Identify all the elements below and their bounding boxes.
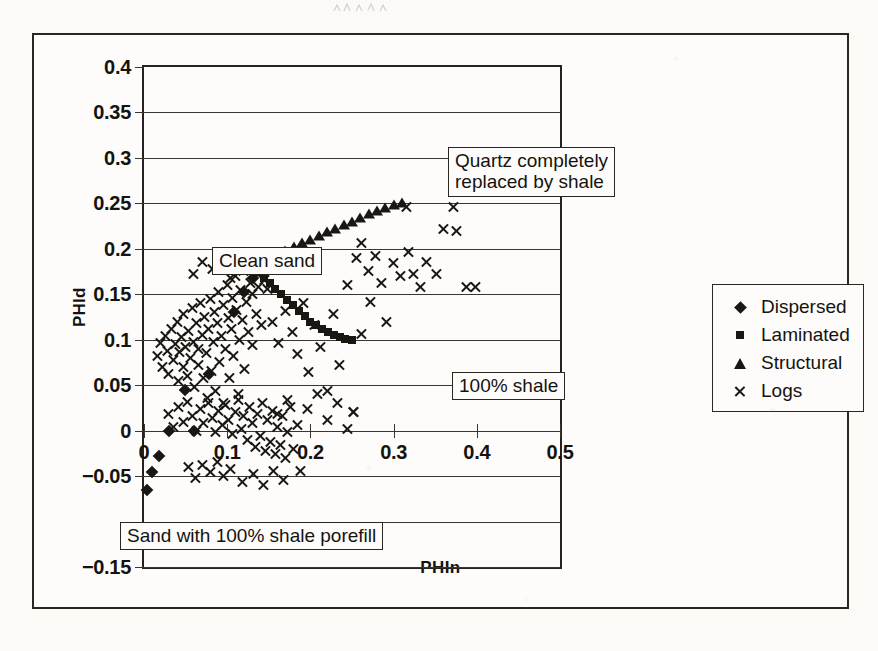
x-tick-label: 0.5 [547,441,574,464]
y-axis-title: PHId [70,287,90,327]
data-point-logs [387,257,400,270]
square-icon [727,331,753,339]
data-point-logs [200,347,213,360]
data-point-logs [347,406,360,419]
y-tick-mark [135,431,144,432]
data-point-logs [287,442,300,455]
y-tick-label: −0.05 [82,465,131,488]
data-point-logs [192,359,205,372]
data-point-logs [327,308,340,321]
data-point-logs [321,413,334,426]
data-point-logs [341,279,354,292]
data-point-logs [402,246,415,259]
data-point-logs [469,281,482,294]
y-tick-mark [135,476,144,477]
y-tick-mark [135,249,144,250]
data-point-dispersed [141,483,154,496]
annotation-sand-shale-porefill: Sand with 100% shale porefill [120,522,383,550]
x-tick-mark [394,424,395,438]
data-point-logs [414,281,427,294]
data-point-logs [297,297,310,310]
data-point-logs [266,315,279,328]
data-point-logs [291,419,304,432]
chart-legend: DispersedLaminatedStructuralLogs [712,284,864,412]
triangle-icon [727,358,753,369]
data-point-logs [447,201,460,214]
data-point-logs [271,408,284,421]
y-tick-mark [135,158,144,159]
x-tick-mark [477,424,478,438]
y-tick-mark [135,294,144,295]
data-point-logs [331,397,344,410]
data-point-logs [281,393,294,406]
x-tick-label: 0 [139,441,150,464]
data-point-logs [350,251,363,264]
data-point-logs [407,268,420,281]
diamond-icon [727,303,753,312]
cross-icon [727,385,753,398]
legend-item-dispersed[interactable]: Dispersed [713,293,863,321]
y-tick-label: 0.1 [104,328,131,351]
data-point-logs [213,355,226,368]
data-point-logs [211,455,224,468]
x-tick-label: 0.2 [297,441,324,464]
y-tick-label: 0.2 [104,237,131,260]
data-point-logs [291,348,304,361]
data-point-logs [236,313,249,326]
data-point-logs [286,326,299,339]
legend-item-label: Laminated [761,324,850,346]
y-tick-label: 0.25 [93,192,131,215]
data-point-logs [308,319,321,332]
data-point-logs [364,295,377,308]
plot-area: −0.15−0.0500.050.10.150.20.250.30.350.4 … [142,65,562,569]
x-tick-label: 0.4 [463,441,490,464]
data-point-logs [375,277,388,290]
y-tick-label: 0.05 [93,374,131,397]
x-tick-label: 0.3 [380,441,407,464]
legend-item-label: Dispersed [761,296,847,318]
scan-header-smudge [330,2,450,14]
y-tick-label: 0.15 [93,283,131,306]
data-point-logs [223,371,236,384]
gridline [144,249,560,250]
data-point-logs [430,268,443,281]
y-tick-label: 0.4 [104,56,131,79]
legend-item-laminated[interactable]: Laminated [713,321,863,349]
data-point-logs [277,473,290,486]
data-point-logs [238,362,251,375]
y-tick-label: −0.15 [82,556,131,579]
data-point-logs [242,326,255,339]
data-point-logs [437,222,450,235]
legend-item-structural[interactable]: Structural [713,349,863,377]
data-point-logs [394,270,407,283]
data-point-logs [369,250,382,263]
x-tick-mark [310,424,311,438]
gridline [144,112,560,113]
x-tick-mark [144,424,145,438]
data-point-logs [355,328,368,341]
data-point-logs [380,315,393,328]
data-point-logs [420,255,433,268]
annotation-clean-sand: Clean sand [212,247,322,275]
legend-item-logs[interactable]: Logs [713,377,863,405]
y-tick-mark [135,340,144,341]
data-point-logs [314,341,327,354]
data-point-logs [209,384,222,397]
data-point-logs [341,422,354,435]
annotation-100-percent-shale: 100% shale [452,372,565,400]
data-point-logs [362,264,375,277]
data-point-logs [227,350,240,363]
y-tick-label: 0 [120,419,131,442]
data-point-logs [272,337,285,350]
data-point-logs [224,462,237,475]
data-point-logs [261,282,274,295]
y-tick-mark [135,203,144,204]
data-point-logs [189,471,202,484]
y-tick-mark [135,112,144,113]
data-point-dispersed [153,450,166,463]
data-point-logs [279,304,292,317]
data-point-logs [333,359,346,372]
legend-item-label: Logs [761,380,802,402]
data-point-logs [302,366,315,379]
y-tick-label: 0.35 [93,101,131,124]
